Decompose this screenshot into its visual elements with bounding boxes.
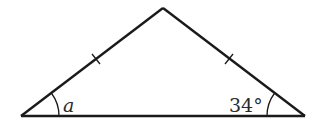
angle-arc-right (267, 93, 275, 116)
isosceles-triangle-diagram: a 34° (0, 0, 326, 133)
angle-label-right: 34° (229, 94, 263, 116)
angle-arc-left (51, 93, 59, 116)
side-left (21, 8, 163, 116)
congruence-ticks (92, 54, 233, 64)
angle-label-left: a (63, 94, 74, 116)
